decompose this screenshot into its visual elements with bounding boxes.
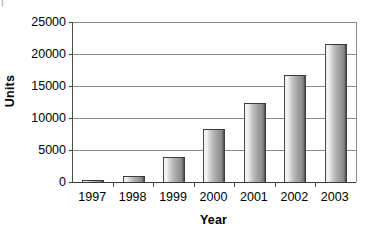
y-tick-label: 10000: [18, 112, 66, 124]
y-tick-label: 20000: [18, 48, 66, 60]
bar-slot: [235, 22, 275, 182]
scan-artifact-fragment: |: [1, 0, 8, 6]
x-tick-label: 2000: [193, 190, 233, 204]
x-tick-label: 2002: [274, 190, 314, 204]
x-tick-mark: [113, 182, 114, 187]
x-tick-mark: [315, 182, 316, 187]
x-tick-mark: [153, 182, 154, 187]
bar[interactable]: [203, 129, 225, 182]
x-tick-label: 2003: [315, 190, 355, 204]
bar-slot: [113, 22, 153, 182]
bar[interactable]: [163, 157, 185, 182]
x-tick-label: 1999: [153, 190, 193, 204]
y-tick-mark: [69, 182, 73, 183]
x-tick-label: 1998: [112, 190, 152, 204]
x-tick-mark: [275, 182, 276, 187]
bar-slot: [73, 22, 113, 182]
y-tick-label: 0: [18, 176, 66, 188]
bar-slot: [194, 22, 234, 182]
x-tick-mark: [234, 182, 235, 187]
x-axis-title: Year: [72, 213, 355, 227]
x-tick-mark: [194, 182, 195, 187]
y-axis-tick-labels: 0500010000150002000025000: [18, 0, 66, 238]
bar[interactable]: [123, 176, 145, 182]
y-tick-label: 5000: [18, 144, 66, 156]
bar[interactable]: [244, 103, 266, 182]
bar-slot: [275, 22, 315, 182]
bar[interactable]: [325, 44, 347, 182]
bar-slot: [316, 22, 356, 182]
plot-area: [72, 22, 357, 182]
bar-series: [73, 22, 356, 182]
y-tick-label: 25000: [18, 16, 66, 28]
bar[interactable]: [284, 75, 306, 182]
x-tick-label: 2001: [234, 190, 274, 204]
x-tick-label: 1997: [72, 190, 112, 204]
x-axis-tick-labels: 1997199819992000200120022003: [72, 190, 355, 208]
y-axis-title: Units: [3, 59, 17, 123]
y-tick-label: 15000: [18, 80, 66, 92]
axis-baseline: [73, 182, 356, 183]
bar-slot: [154, 22, 194, 182]
bar-chart: | Units 0500010000150002000025000 199719…: [0, 0, 371, 238]
bar[interactable]: [82, 180, 104, 182]
